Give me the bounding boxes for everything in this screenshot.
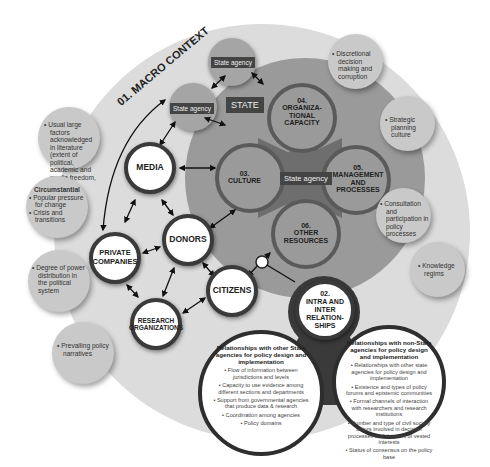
capacity-06-label: 06.OTHERRESOURCES	[278, 222, 334, 244]
factor-strategic-planning: • Strategic planning culture	[380, 96, 435, 151]
factor-power-distribution: • Degree of power distribution in the po…	[28, 250, 90, 312]
state-agency-label-top: State agency	[211, 57, 255, 68]
factor-consultation: • Consultation and participation in poli…	[376, 188, 431, 243]
nonstate-relationships-box: Relationships with non-State agencies fo…	[332, 325, 446, 439]
capacity-03-label: 03.CULTURE	[222, 170, 267, 185]
actor-media: MEDIA	[124, 142, 176, 194]
factor-discretional: • Discretional decision making and corru…	[328, 34, 383, 89]
state-agency-label-left: State agency	[170, 103, 214, 114]
factor-circumstantial: Circumstantial • Popular pressure for ch…	[26, 176, 88, 238]
actor-donors: DONORS	[162, 214, 214, 266]
junction-node	[256, 256, 268, 268]
capacity-05-label: 05.MANAGEMENTANDPROCESSES	[328, 164, 388, 193]
core-state-agency-label: State agency	[280, 172, 332, 185]
relationships-hub: 02.INTRA ANDINTERRELATION-SHIPS	[295, 280, 355, 340]
actor-research-organizations: RESEARCHORGANIZATIONS	[130, 298, 182, 350]
factor-knowledge-regims: • Knowledge regims	[410, 242, 465, 297]
capacity-04-label: 04.ORGANIZA-TIONALCAPACITY	[272, 97, 332, 126]
state-relationships-box: Relationships with other State agencies …	[198, 330, 324, 456]
actor-private-companies: PRIVATECOMPANIES	[89, 232, 141, 284]
factor-large-factors: • Usual large factors acknowledged in li…	[38, 107, 100, 169]
factor-policy-narratives: • Prevailing policy narratives	[52, 322, 114, 384]
policy-context-diagram: 01. MACRO CONTEXT State agency State age…	[0, 0, 490, 467]
state-label: STATE	[226, 97, 264, 113]
actor-citizens: CITIZENS	[206, 265, 258, 317]
